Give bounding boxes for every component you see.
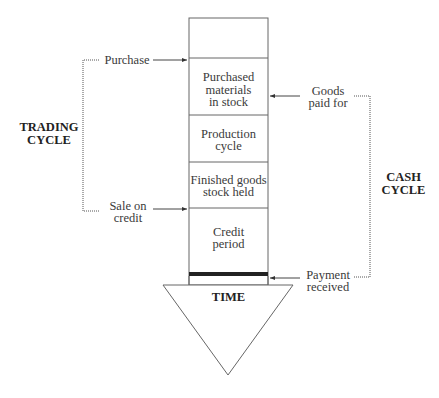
stage-credit-period: Credit period xyxy=(189,226,268,250)
diagram-canvas xyxy=(0,0,439,398)
trading-cycle-label: TRADING CYCLE xyxy=(18,121,80,147)
stage-production-cycle: Production cycle xyxy=(189,128,268,152)
label-line: CYCLE xyxy=(376,184,431,197)
purchase-label: Purchase xyxy=(103,54,151,66)
cash-cycle-label: CASH CYCLE xyxy=(376,171,431,197)
time-label: TIME xyxy=(189,291,268,304)
stage-label-line: in stock xyxy=(189,96,268,109)
payment-received-label: Payment received xyxy=(305,269,351,293)
stage-purchased-materials: Purchased materials in stock xyxy=(189,71,268,109)
label-line: CYCLE xyxy=(18,134,80,147)
payment-bar xyxy=(189,272,268,276)
stage-label-line: cycle xyxy=(189,140,268,152)
stage-finished-goods: Finished goods stock held xyxy=(186,174,271,198)
goods-paid-for-label: Goods paid for xyxy=(305,85,351,109)
stage-label-line: Purchased xyxy=(189,71,268,84)
label-line: credit xyxy=(108,212,148,224)
stage-label-line: period xyxy=(189,238,268,250)
sale-on-credit-label: Sale on credit xyxy=(108,200,148,224)
trading-cycle-bracket xyxy=(83,60,99,211)
label-line: received xyxy=(305,281,351,293)
stage-label-line: stock held xyxy=(186,186,271,198)
cash-cycle-bracket xyxy=(354,96,370,277)
label-line: paid for xyxy=(305,97,351,109)
